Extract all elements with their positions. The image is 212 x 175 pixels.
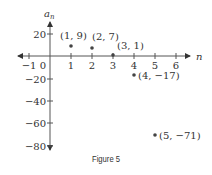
data-point bbox=[111, 53, 115, 57]
y-tick-label: −40 bbox=[25, 96, 46, 107]
x-tick-label: 3 bbox=[110, 60, 116, 71]
x-tick-label: 2 bbox=[89, 60, 95, 71]
data-point bbox=[90, 46, 94, 50]
x-tick-label: 1 bbox=[68, 60, 74, 71]
point-labels: (1, 9) (2, 7) (3, 1) (4, −17) (5, −71) bbox=[60, 30, 201, 141]
data-point bbox=[153, 133, 157, 137]
point-label: (1, 9) bbox=[60, 30, 87, 41]
x-tick-label: −1 bbox=[22, 60, 37, 71]
x-axis-label: n bbox=[196, 51, 202, 62]
point-label: (4, −17) bbox=[138, 70, 180, 81]
y-tick-label: −80 bbox=[25, 141, 46, 152]
origin-label: 0 bbox=[40, 60, 46, 71]
y-tick-label: −60 bbox=[25, 118, 46, 129]
y-tick-label: −20 bbox=[25, 74, 46, 85]
y-tick-label: 20 bbox=[33, 29, 46, 40]
data-point bbox=[132, 73, 136, 77]
point-label: (3, 1) bbox=[117, 40, 144, 51]
x-tick-label: 4 bbox=[131, 60, 137, 71]
figure-caption: Figure 5 bbox=[16, 154, 196, 164]
y-tick-labels: 20 −20 −40 −60 −80 bbox=[25, 29, 46, 152]
data-point bbox=[69, 44, 73, 48]
y-axis-label: an bbox=[44, 8, 55, 21]
point-label: (2, 7) bbox=[92, 31, 119, 42]
point-label: (5, −71) bbox=[159, 130, 201, 141]
chart-canvas: −1 0 1 2 3 4 5 6 20 −20 −40 −60 −80 n an… bbox=[0, 0, 212, 175]
